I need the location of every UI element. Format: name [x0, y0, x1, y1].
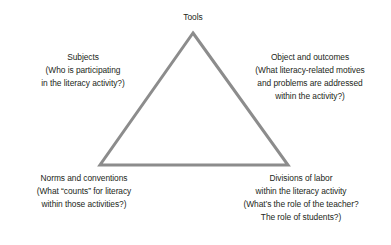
label-object-and-outcomes-line-2: (What literacy-related motives	[232, 64, 388, 77]
label-object-and-outcomes-line-1: Object and outcomes	[232, 51, 388, 64]
label-tools: Tools	[148, 11, 238, 24]
label-divisions-of-labor-line-2: within the literacy activity	[222, 185, 380, 198]
label-divisions-of-labor-line-3: (What’s the role of the teacher?	[222, 198, 380, 211]
label-norms-and-conventions: Norms and conventions (What “counts” for…	[8, 172, 160, 211]
activity-triangle-diagram: Tools Subjects (Who is participating in …	[0, 0, 391, 245]
label-norms-and-conventions-line-3: within those activities?)	[8, 198, 160, 211]
label-subjects: Subjects (Who is participating in the li…	[13, 51, 153, 90]
label-subjects-line-2: (Who is participating	[13, 64, 153, 77]
label-divisions-of-labor-line-4: The role of students?)	[222, 211, 380, 224]
label-subjects-line-3: in the literacy activity?)	[13, 77, 153, 90]
label-divisions-of-labor: Divisions of labor within the literacy a…	[222, 172, 380, 224]
label-object-and-outcomes-line-4: within the activity?)	[232, 90, 388, 103]
label-norms-and-conventions-line-1: Norms and conventions	[8, 172, 160, 185]
label-tools-line-1: Tools	[148, 11, 238, 24]
label-divisions-of-labor-line-1: Divisions of labor	[222, 172, 380, 185]
label-object-and-outcomes: Object and outcomes (What literacy-relat…	[232, 51, 388, 103]
label-subjects-line-1: Subjects	[13, 51, 153, 64]
label-object-and-outcomes-line-3: and problems are addressed	[232, 77, 388, 90]
label-norms-and-conventions-line-2: (What “counts” for literacy	[8, 185, 160, 198]
